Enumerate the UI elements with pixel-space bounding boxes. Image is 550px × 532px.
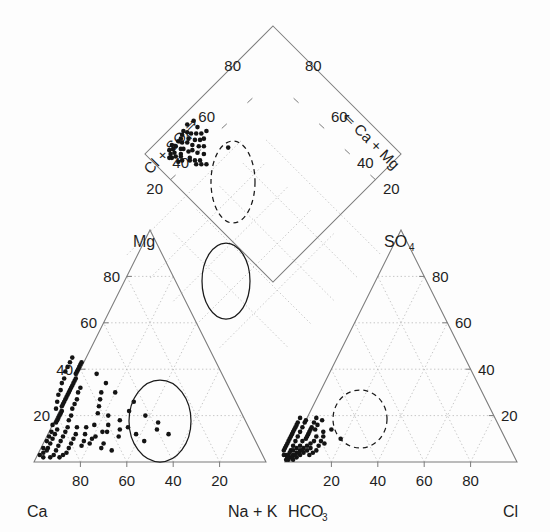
cation-triangle-group: 20 40 60 80 80 60 40 20 Ca Na + K Mg <box>27 230 278 520</box>
data-point <box>94 372 99 377</box>
data-point <box>298 430 303 435</box>
data-point <box>82 439 87 444</box>
data-point <box>106 423 111 428</box>
diamond-right-tick-40: 40 <box>357 154 374 171</box>
data-point <box>106 413 111 418</box>
data-point <box>41 455 46 460</box>
data-point <box>304 418 309 423</box>
data-point <box>68 360 73 365</box>
data-point <box>55 399 60 404</box>
data-point <box>109 448 114 453</box>
anion-right-tick-60: 60 <box>455 314 472 331</box>
data-point <box>60 381 65 386</box>
data-point <box>76 390 81 395</box>
data-point <box>72 402 77 407</box>
cation-bottom-tick-80: 80 <box>72 472 89 489</box>
data-point <box>194 162 199 167</box>
data-point <box>71 437 76 442</box>
data-point <box>155 427 160 432</box>
anion-triangle-group: 20 40 60 80 20 40 60 80 HCO 3 Cl SO 4 <box>282 230 519 523</box>
data-point <box>202 136 207 141</box>
data-point <box>97 404 102 409</box>
data-point <box>202 144 207 149</box>
cation-group-solid-ellipse <box>129 380 191 462</box>
diamond-left-tick-80: 80 <box>224 57 241 74</box>
diamond-left-tick-60: 60 <box>198 108 215 125</box>
data-point <box>101 441 106 446</box>
data-point <box>204 129 209 134</box>
data-point <box>92 423 97 428</box>
anion-bottom-axis-ticks <box>331 462 470 467</box>
data-point <box>308 446 313 451</box>
cation-bottom-axis-ticks <box>80 462 219 467</box>
data-point <box>75 425 80 430</box>
data-point <box>194 131 199 136</box>
data-point <box>320 418 325 423</box>
data-point <box>105 430 110 435</box>
data-point <box>305 434 310 439</box>
data-point <box>58 388 63 393</box>
data-point <box>312 439 317 444</box>
data-point <box>61 434 66 439</box>
diamond-left-tick-20: 20 <box>146 180 163 197</box>
diamond-group: 20 40 60 80 20 40 60 80 Cl + SO 4 ⇒ ⇐ Ca… <box>127 26 403 348</box>
data-point <box>321 430 326 435</box>
data-point <box>90 437 95 442</box>
data-point <box>188 158 193 163</box>
data-point <box>98 397 103 402</box>
data-point <box>99 390 104 395</box>
data-point <box>314 448 319 453</box>
anion-right-axis-ticks <box>419 276 494 415</box>
data-point <box>226 145 231 150</box>
data-point <box>282 453 287 458</box>
data-point <box>283 446 288 451</box>
data-point <box>321 434 326 439</box>
piper-diagram-figure: 20 40 60 80 80 60 40 20 Ca Na + K Mg <box>0 0 550 532</box>
cation-left-tick-80: 80 <box>103 268 120 285</box>
vertex-label-na-k: Na + K <box>228 503 278 520</box>
data-point <box>190 148 195 153</box>
piper-diagram-canvas: 20 40 60 80 80 60 40 20 Ca Na + K Mg <box>0 0 550 532</box>
data-point <box>199 131 204 136</box>
data-point <box>300 448 305 453</box>
diamond-right-tick-80: 80 <box>305 57 322 74</box>
anion-right-tick-20: 20 <box>501 407 518 424</box>
data-point <box>55 427 60 432</box>
data-point <box>186 136 191 141</box>
cation-left-tick-60: 60 <box>80 314 97 331</box>
data-point <box>314 434 319 439</box>
data-point <box>191 118 196 123</box>
data-point <box>142 439 147 444</box>
data-point <box>190 143 195 148</box>
data-point <box>143 413 148 418</box>
data-point <box>113 390 118 395</box>
data-point <box>193 138 198 143</box>
data-point <box>54 406 59 411</box>
data-point <box>70 406 75 411</box>
data-point <box>199 162 204 167</box>
data-point <box>316 443 321 448</box>
data-point <box>60 409 65 414</box>
anion-bottom-tick-80: 80 <box>462 472 479 489</box>
data-point <box>185 122 190 127</box>
data-point <box>300 425 305 430</box>
data-point <box>79 360 84 365</box>
data-point <box>322 441 327 446</box>
vertex-label-so4-subscript: 4 <box>409 242 415 253</box>
data-point <box>63 369 68 374</box>
anion-bottom-tick-60: 60 <box>416 472 433 489</box>
data-point <box>57 455 62 460</box>
data-point <box>79 443 84 448</box>
data-point <box>69 413 74 418</box>
data-point <box>99 446 104 451</box>
data-point <box>202 152 207 157</box>
anion-right-tick-40: 40 <box>478 361 495 378</box>
anion-group-dashed-ellipse <box>333 390 387 448</box>
data-point <box>73 376 78 381</box>
data-point <box>196 144 201 149</box>
data-point <box>167 148 172 153</box>
data-point <box>329 427 334 432</box>
data-point <box>73 432 78 437</box>
data-point <box>176 159 181 164</box>
data-point <box>195 125 200 130</box>
